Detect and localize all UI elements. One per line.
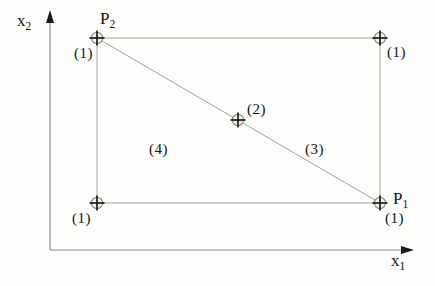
region-label-3: (3) [305, 142, 324, 157]
x-axis-label-base: x [391, 251, 400, 270]
point-p2-label-subscript: 2 [109, 18, 115, 31]
weight-label-bottom-right: (1) [385, 211, 404, 226]
design-points-diagram: x2 x1 P2 P1 (1) (1) (2) (1) (1) (3) (4) [0, 0, 435, 286]
weight-label-bottom-left: (1) [72, 211, 91, 226]
weight-label-center: (2) [247, 102, 266, 117]
diagram-canvas [0, 0, 435, 286]
y-axis-label-base: x [17, 11, 26, 30]
region-label-4: (4) [149, 142, 168, 157]
x-axis-label-subscript: 1 [400, 260, 406, 273]
weight-label-top-right: (1) [387, 45, 406, 60]
y-axis-arrowhead-icon [46, 10, 54, 23]
x-axis-label: x1 [391, 252, 405, 273]
weight-label-top-left: (1) [74, 46, 93, 61]
point-p2-label: P2 [100, 10, 115, 31]
point-p1-label: P1 [393, 190, 408, 211]
y-axis-label-subscript: 2 [26, 20, 32, 33]
y-axis-label: x2 [17, 12, 31, 33]
